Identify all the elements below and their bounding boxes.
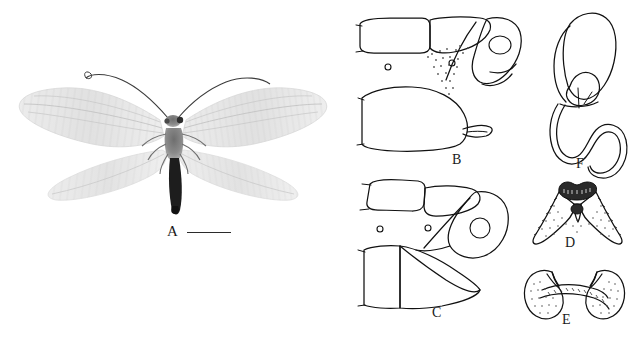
panel-d-label: D [565,236,575,250]
hindwing-left [48,150,166,200]
panel-e-label: E [562,313,571,327]
panel-b-label: B [452,153,462,167]
panel-c-label: C [432,306,442,320]
panel-f-label: F [576,157,584,171]
panel-a-habitus-photo [0,0,345,337]
panel-d-gonarcus-mediuncus [524,178,631,258]
panel-e-gonapophyses [518,256,631,337]
forewing-right [182,88,327,147]
panel-b-terminal-segments-lateral [350,2,532,174]
figure-plate: B C [0,0,631,337]
panel-f-spermatheca [534,0,631,182]
hindwing-right [180,150,298,200]
scale-bar [187,232,231,233]
forewing-left [19,88,164,147]
panel-a-label: A [167,224,178,239]
